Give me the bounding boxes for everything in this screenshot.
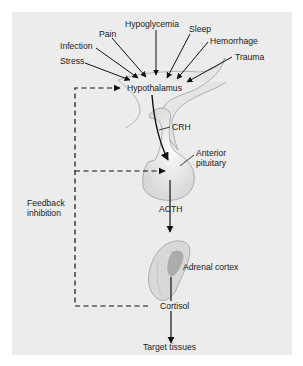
adrenal-cortex-label: Adrenal cortex [183, 262, 238, 272]
feedback-label-1: Feedback [27, 198, 65, 208]
hypothalamus-shape [118, 58, 226, 150]
anterior-pituitary-label-2: pituitary [196, 158, 226, 168]
stressor-hemorrhage: Hemorrhage [210, 36, 258, 46]
stressor-trauma: Trauma [235, 52, 264, 62]
stressor-infection: Infection [60, 41, 93, 51]
crh-label: CRH [172, 122, 191, 132]
target-tissues-label: Target tissues [143, 342, 196, 352]
anterior-pituitary-label-1: Anterior [196, 148, 226, 158]
hypothalamus-label: Hypothalamus [127, 83, 182, 93]
stressor-pain: Pain [99, 29, 116, 39]
stressor-sleep: Sleep [189, 24, 211, 34]
stressor-stress: Stress [60, 56, 84, 66]
feedback-label-2: inhibition [27, 208, 61, 218]
stressor-hypoglycemia: Hypoglycemia [125, 19, 179, 29]
cortisol-label: Cortisol [158, 301, 191, 311]
acth-label: ACTH [159, 204, 182, 214]
